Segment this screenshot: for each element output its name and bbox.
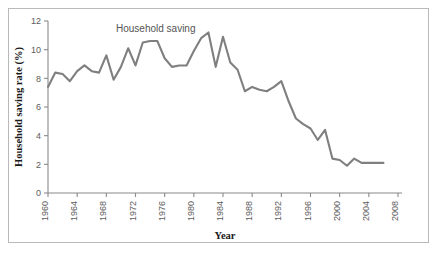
x-tick-label: 1964 — [69, 201, 79, 221]
y-tick-label: 4 — [36, 131, 41, 141]
y-tick-label: 12 — [31, 16, 41, 26]
x-tick-label: 2000 — [332, 201, 342, 221]
figure-container: 024681012 196019641968197219761980198419… — [0, 0, 438, 256]
x-tick-label: 1980 — [186, 201, 196, 221]
x-tick-label: 2008 — [390, 201, 400, 221]
x-tick-label: 1988 — [244, 201, 254, 221]
series-annotation-label: Household saving — [116, 23, 196, 34]
y-tick-labels: 024681012 — [31, 16, 41, 198]
y-tick-label: 6 — [36, 102, 41, 112]
y-tick-label: 8 — [36, 74, 41, 84]
x-tick-label: 2004 — [361, 201, 371, 221]
y-tick-marks — [44, 21, 48, 193]
y-tick-label: 10 — [31, 45, 41, 55]
x-tick-label: 1972 — [128, 201, 138, 221]
x-tick-label: 1992 — [273, 201, 283, 221]
y-tick-label: 0 — [36, 188, 41, 198]
x-tick-label: 1984 — [215, 201, 225, 221]
chart-canvas: 024681012 196019641968197219761980198419… — [0, 0, 438, 256]
x-tick-label: 1960 — [40, 201, 50, 221]
y-tick-label: 2 — [36, 160, 41, 170]
x-tick-label: 1976 — [157, 201, 167, 221]
x-tick-labels: 1960196419681972197619801984198819921996… — [40, 201, 400, 221]
x-tick-label: 1996 — [303, 201, 313, 221]
x-axis-title: Year — [215, 230, 236, 241]
x-tick-marks — [48, 193, 398, 197]
data-series-line — [48, 32, 383, 165]
y-axis-title: Household saving rate (%) — [13, 47, 25, 167]
x-tick-label: 1968 — [98, 201, 108, 221]
